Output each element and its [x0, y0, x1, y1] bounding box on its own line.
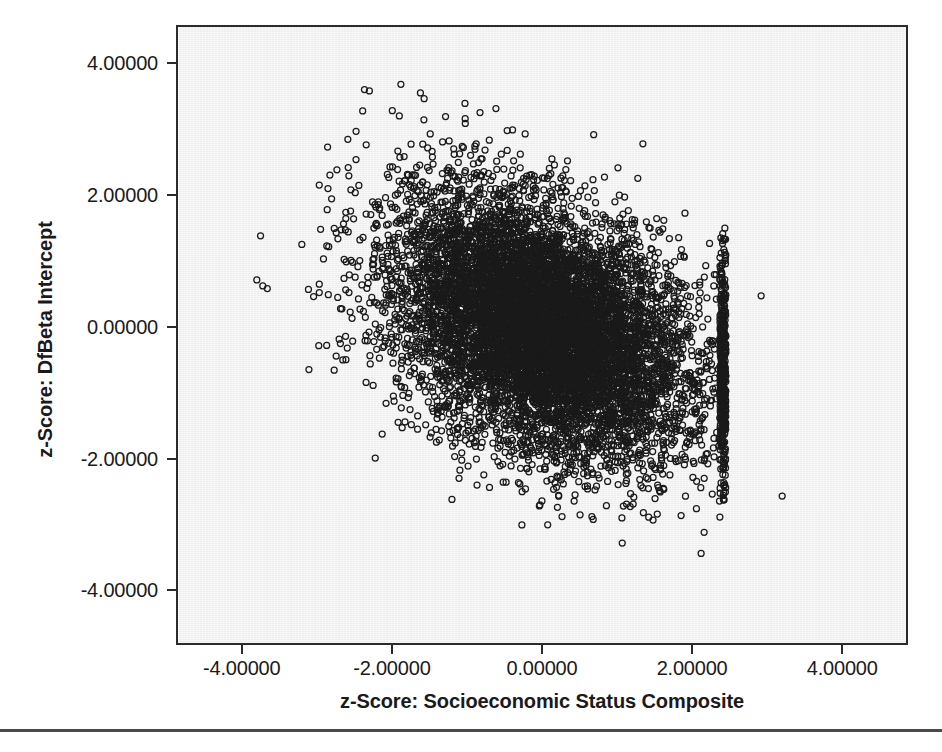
x-tick-label: 4.00000 — [807, 657, 878, 680]
y-tick-label: 4.00000 — [87, 52, 158, 75]
x-tick-mark — [241, 645, 243, 654]
scatter-points-layer — [178, 27, 906, 643]
x-tick-label: -4.00000 — [203, 657, 280, 680]
x-tick-mark — [691, 645, 693, 654]
x-tick-label: 2.00000 — [657, 657, 728, 680]
y-axis-title: z-Score: DfBeta Intercept — [34, 30, 57, 650]
y-tick-mark — [167, 194, 176, 196]
y-tick-mark — [167, 458, 176, 460]
y-tick-label: 2.00000 — [87, 184, 158, 207]
bottom-divider-rule — [0, 729, 942, 732]
x-tick-label: 0.00000 — [507, 657, 578, 680]
scatter-plot-figure: -4.00000-2.000000.000002.000004.00000 4.… — [0, 0, 942, 752]
x-tick-mark — [841, 645, 843, 654]
y-tick-label: -4.00000 — [81, 579, 158, 602]
y-tick-label: 0.00000 — [87, 315, 158, 338]
x-tick-label: -2.00000 — [353, 657, 430, 680]
y-tick-label: -2.00000 — [81, 447, 158, 470]
y-tick-mark — [167, 326, 176, 328]
y-tick-mark — [167, 62, 176, 64]
y-tick-mark — [167, 589, 176, 591]
x-tick-mark — [391, 645, 393, 654]
x-axis-title: z-Score: Socioeconomic Status Composite — [176, 690, 908, 713]
plot-panel — [176, 25, 908, 645]
x-tick-mark — [541, 645, 543, 654]
